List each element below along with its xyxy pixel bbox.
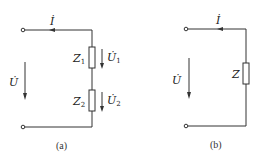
current-label-a: İ xyxy=(49,14,55,28)
voltage-arrow-icon-b xyxy=(187,92,191,99)
caption-a: (a) xyxy=(56,140,67,152)
u2-arrow-icon xyxy=(100,106,104,112)
terminal-top-a xyxy=(21,28,25,32)
current-arrow-icon-a xyxy=(49,28,55,32)
terminal-bottom-a xyxy=(21,125,25,129)
caption-b: (b) xyxy=(210,139,222,151)
impedance-z xyxy=(243,63,249,84)
impedance-z1 xyxy=(89,47,95,68)
u1-label: U̇1 xyxy=(107,51,121,65)
z-label: Z xyxy=(231,68,240,81)
z2-label: Z2 xyxy=(72,95,85,109)
u2-label: U̇2 xyxy=(107,94,121,108)
current-label-b: İ xyxy=(215,13,221,27)
u1-arrow-icon xyxy=(100,63,104,69)
voltage-label-b: U̇ xyxy=(172,74,182,87)
terminal-top-b xyxy=(184,27,188,31)
terminal-bottom-b xyxy=(184,124,188,128)
impedance-z2 xyxy=(89,90,95,111)
voltage-label-a: U̇ xyxy=(9,76,19,89)
z1-label: Z1 xyxy=(72,52,85,66)
current-arrow-icon-b xyxy=(217,27,223,31)
voltage-arrow-icon-a xyxy=(23,93,27,100)
circuit-figure: İ U̇ Z1 U̇1 Z2 U̇2 (a) İ U̇ Z (b) xyxy=(0,0,260,160)
circuit-a xyxy=(21,28,104,129)
